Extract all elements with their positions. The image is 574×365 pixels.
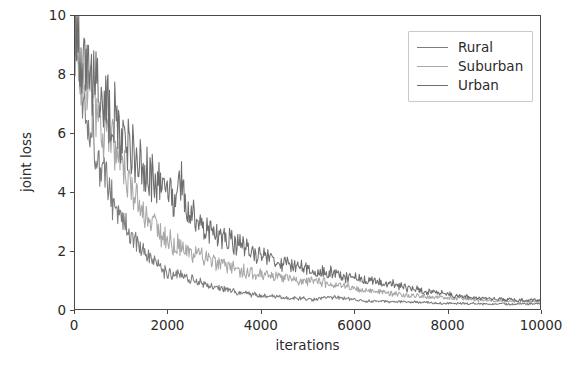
chart-legend: RuralSuburbanUrban <box>408 31 533 102</box>
x-tick-label: 10000 <box>520 317 562 333</box>
legend-item-label: Rural <box>458 41 493 55</box>
legend-item-suburban[interactable]: Suburban <box>417 57 523 76</box>
legend-line-swatch <box>417 66 448 67</box>
y-tick-label: 6 <box>57 125 66 141</box>
legend-line-swatch <box>417 47 448 48</box>
legend-item-label: Urban <box>458 79 499 93</box>
x-tick-mark <box>448 310 449 314</box>
chart-figure: joint loss 0246810 020004000600080001000… <box>0 0 574 365</box>
x-tick-label: 2000 <box>150 317 184 333</box>
x-axis-label: iterations <box>74 337 541 353</box>
x-tick-label: 8000 <box>431 317 465 333</box>
y-tick-label: 8 <box>57 66 66 82</box>
y-tick-label: 2 <box>57 243 66 259</box>
x-tick-mark <box>167 310 168 314</box>
x-tick-label: 0 <box>70 317 79 333</box>
legend-line-swatch <box>417 85 448 86</box>
legend-item-rural[interactable]: Rural <box>417 38 523 57</box>
y-axis-label-container: joint loss <box>22 0 23 325</box>
legend-item-label: Suburban <box>458 60 523 74</box>
legend-item-urban[interactable]: Urban <box>417 76 523 95</box>
y-tick-label: 10 <box>49 7 66 23</box>
x-tick-mark <box>541 310 542 314</box>
x-tick-label: 4000 <box>244 317 278 333</box>
x-tick-label: 6000 <box>337 317 371 333</box>
x-tick-mark <box>354 310 355 314</box>
y-tick-label: 0 <box>57 302 66 318</box>
y-tick-label: 4 <box>57 184 66 200</box>
y-axis-label: joint loss <box>18 132 34 192</box>
x-tick-mark <box>261 310 262 314</box>
x-tick-mark <box>74 310 75 314</box>
